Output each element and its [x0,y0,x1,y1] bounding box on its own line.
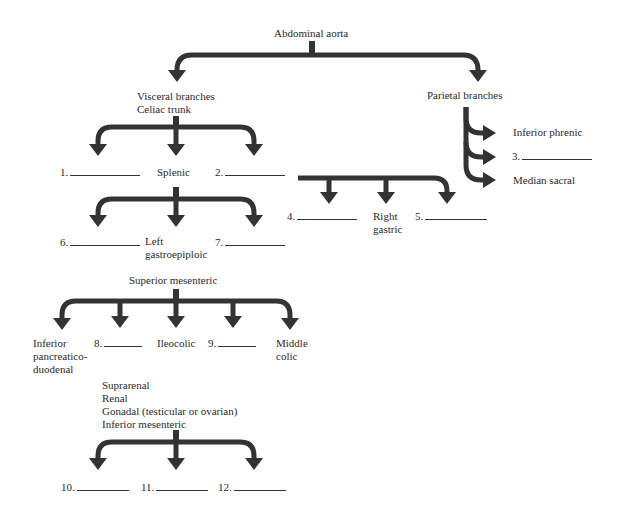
blank-number: 11. [141,481,154,493]
arrow-celiac [98,116,254,145]
arrowhead [245,144,263,156]
arrowhead [168,70,186,82]
arrowhead [167,316,185,328]
node-middle-colic: Middle colic [276,337,308,363]
blank-number: 7. [215,236,223,248]
arrowhead [469,70,487,82]
answer-line[interactable] [225,174,285,176]
node-inferior-pancreaticoduodenal: Inferior pancreatico- duodenal [33,337,87,376]
blank-4[interactable]: 4. [287,210,357,223]
arrow-splenic [98,187,254,216]
arrow-hepatic [298,178,447,193]
blank-6[interactable]: 6. [60,236,140,249]
blank-9[interactable]: 9. [208,337,256,350]
arrowhead [111,316,129,328]
arrowhead [53,318,71,330]
blank-2[interactable]: 2. [215,166,285,179]
blank-number: 3. [512,150,520,162]
arrowhead [320,192,338,204]
blank-number: 4. [287,210,295,222]
answer-line[interactable] [156,489,208,491]
blank-number: 1. [60,166,68,178]
node-parietal: Parietal branches [427,89,502,102]
node-right-gastric: Right gastric [373,210,402,236]
answer-line[interactable] [225,244,285,246]
blank-10[interactable]: 10. [61,481,129,494]
arrowhead [483,172,496,188]
arrowhead [377,192,395,204]
arrowhead [167,458,185,470]
arrowhead [224,316,242,328]
node-left-gastroepiploic: Left gastroepiploic [145,235,207,261]
answer-line[interactable] [70,244,140,246]
blank-5[interactable]: 5. [415,210,487,223]
node-superior-mesenteric: Superior mesenteric [129,274,217,287]
node-visceral-celiac: Visceral branches Celiac trunk [137,90,215,116]
node-ileocolic: Ileocolic [157,337,195,350]
blank-number: 2. [215,166,223,178]
answer-line[interactable] [70,174,140,176]
blank-number: 5. [415,210,423,222]
arrowhead [245,215,263,227]
blank-number: 12. [218,481,232,493]
arrowhead [89,215,107,227]
blank-7[interactable]: 7. [215,236,285,249]
blank-number: 8. [94,337,102,349]
arrow-lower [98,430,254,459]
answer-line[interactable] [77,489,129,491]
arrow-layer [0,0,632,523]
blank-1[interactable]: 1. [60,166,140,179]
arrowhead [483,125,496,141]
arrowhead [281,318,299,330]
node-median-sacral: Median sacral [513,174,575,187]
answer-line[interactable] [234,489,286,491]
answer-line[interactable] [297,218,357,220]
blank-11[interactable]: 11. [141,481,208,494]
arrow-parietal [466,107,485,180]
node-abdominal-aorta: Abdominal aorta [274,27,348,40]
arrowhead [483,149,496,165]
blank-3[interactable]: 3. [512,150,592,163]
arrowhead [167,215,185,227]
arrowhead [245,458,263,470]
blank-12[interactable]: 12. [218,481,286,494]
blank-number: 10. [61,481,75,493]
arrowhead [438,192,456,204]
arrow-aorta [177,41,478,72]
node-inferior-phrenic: Inferior phrenic [513,126,582,139]
answer-line[interactable] [425,218,487,220]
answer-line[interactable] [522,158,592,160]
arrowhead [89,144,107,156]
answer-line[interactable] [104,345,142,347]
blank-number: 9. [208,337,216,349]
blank-number: 6. [60,236,68,248]
arrow-superior-mesenteric [62,289,290,319]
node-splenic: Splenic [157,166,190,179]
arrowhead [89,458,107,470]
node-other-branches: Suprarenal Renal Gonadal (testicular or … [102,379,237,431]
answer-line[interactable] [218,345,256,347]
arrowhead [167,144,185,156]
blank-8[interactable]: 8. [94,337,142,350]
